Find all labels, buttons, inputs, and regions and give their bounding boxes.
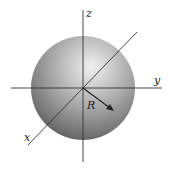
y-label: y — [153, 74, 161, 87]
radius-label: R — [86, 99, 95, 112]
x-label: x — [24, 131, 31, 144]
sphere-diagram: z y x R — [0, 0, 171, 169]
z-label: z — [85, 7, 92, 20]
